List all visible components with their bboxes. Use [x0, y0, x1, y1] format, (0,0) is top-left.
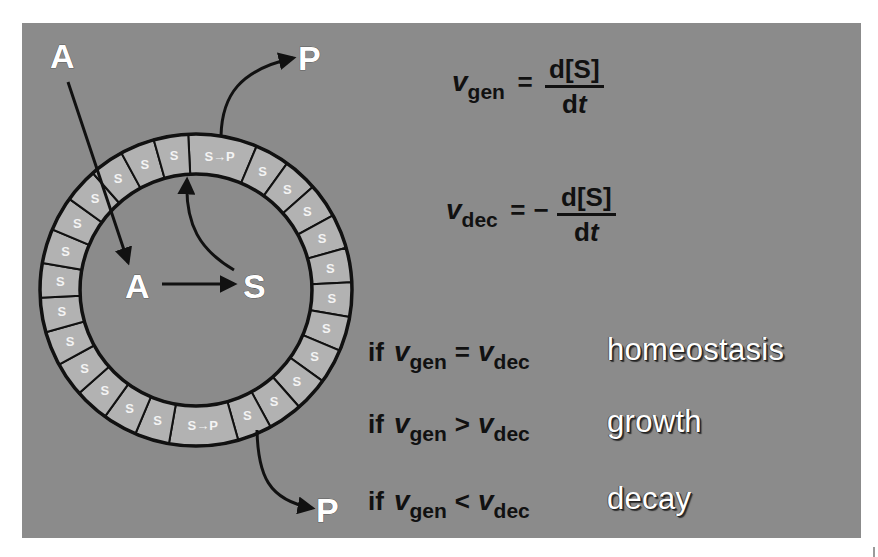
arrow-membrane-to-top-P	[221, 58, 293, 136]
cell-label-s-to-p: S→P	[204, 149, 235, 164]
v-symbol: v	[394, 485, 410, 516]
cell-label-s: S	[326, 261, 335, 276]
cell-label-s: S	[170, 148, 179, 163]
subscript-dec: dec	[494, 422, 530, 445]
numerator: d[S]	[545, 56, 604, 88]
v-symbol: v	[478, 408, 494, 439]
den-d: d	[574, 217, 590, 247]
fraction-dS-dt: d[S] dt	[545, 56, 604, 117]
condition-growth: ifvgen>vdec	[368, 410, 530, 438]
state-homeostasis: homeostasis	[607, 334, 784, 365]
v-symbol: v	[478, 485, 494, 516]
membrane-ring: S→PSSSSSSSSSSSS→PSSSSSSSSSSSSS	[40, 134, 352, 446]
minus-sign: −	[533, 195, 548, 225]
cell-label-s: S	[327, 291, 336, 306]
ring-outer-edge	[40, 134, 352, 446]
cell-label-s: S	[318, 231, 327, 246]
den-t: t	[590, 217, 599, 247]
cell-label-s: S	[153, 413, 162, 428]
comparison-operator: =	[455, 337, 470, 367]
state-decay: decay	[607, 483, 691, 514]
cell-label-s: S	[243, 408, 252, 423]
subscript-dec: dec	[494, 499, 530, 522]
cell-label-s: S	[73, 216, 82, 231]
cell-label-s: S	[125, 401, 134, 416]
v-symbol: v	[446, 194, 462, 225]
label-inner-A: A	[125, 267, 150, 305]
cell-label-s: S	[61, 244, 70, 259]
cell-ring-diagram: S→PSSSSSSSSSSSS→PSSSSSSSSSSSSS A P A S P	[0, 0, 878, 557]
cell-label-s: S	[270, 394, 279, 409]
equation-v-gen: vgen = d[S] dt	[452, 56, 604, 117]
cell-label-s: S	[100, 383, 109, 398]
cell-label-s: S	[80, 361, 89, 376]
cell-label-s-to-p: S→P	[188, 418, 219, 433]
fraction-dS-dt: d[S] dt	[557, 184, 616, 245]
subscript-dec: dec	[462, 208, 498, 231]
v-symbol: v	[394, 336, 410, 367]
v-symbol: v	[478, 336, 494, 367]
cell-label-s: S	[293, 374, 302, 389]
subscript-gen: gen	[409, 350, 446, 373]
if-keyword: if	[368, 409, 384, 439]
condition-decay: ifvgen<vdec	[368, 487, 530, 515]
cell-label-s: S	[91, 191, 100, 206]
equals-sign: =	[510, 195, 525, 225]
equals-sign: =	[517, 67, 532, 97]
v-symbol: v	[452, 66, 468, 97]
state-growth: growth	[607, 406, 702, 437]
subscript-gen: gen	[468, 80, 505, 103]
scan-mark	[873, 547, 875, 557]
arrow-membrane-to-bottom-P	[257, 430, 312, 508]
label-top-P: P	[298, 39, 321, 77]
cell-label-s: S	[66, 334, 75, 349]
den-d: d	[562, 89, 578, 119]
numerator: d[S]	[557, 184, 616, 216]
label-outer-A: A	[50, 37, 75, 75]
cell-label-s: S	[57, 304, 66, 319]
cell-label-s: S	[310, 349, 319, 364]
cell-label-s: S	[283, 182, 292, 197]
equation-v-dec: vdec =− d[S] dt	[446, 184, 616, 245]
label-inner-S: S	[243, 267, 266, 305]
denominator: dt	[557, 216, 616, 245]
condition-homeostasis: ifvgen=vdec	[368, 338, 530, 366]
comparison-operator: <	[455, 486, 470, 516]
if-keyword: if	[368, 337, 384, 367]
cell-label-s: S	[258, 164, 267, 179]
denominator: dt	[545, 88, 604, 117]
label-bottom-P: P	[316, 491, 339, 529]
v-symbol: v	[394, 408, 410, 439]
if-keyword: if	[368, 486, 384, 516]
subscript-dec: dec	[494, 350, 530, 373]
cell-label-s: S	[303, 204, 312, 219]
comparison-operator: >	[455, 409, 470, 439]
ring-inner-edge	[80, 174, 312, 406]
subscript-gen: gen	[409, 499, 446, 522]
den-t: t	[578, 89, 587, 119]
cell-label-s: S	[140, 157, 149, 172]
cell-label-s: S	[322, 321, 331, 336]
subscript-gen: gen	[409, 422, 446, 445]
arrow-S-to-membrane	[187, 180, 234, 270]
cell-label-s: S	[56, 274, 65, 289]
cell-label-s: S	[114, 171, 123, 186]
